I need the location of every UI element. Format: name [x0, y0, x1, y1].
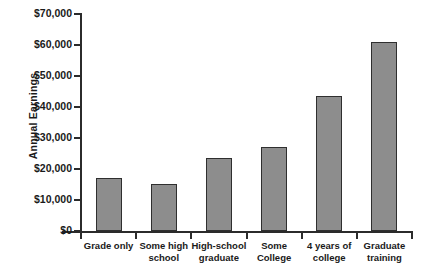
y-axis-tick-label-text: $50,000	[0, 69, 72, 81]
y-axis-tick-label-text: $10,000	[0, 193, 72, 205]
y-axis-tick	[74, 13, 81, 15]
x-axis-tick	[135, 231, 137, 239]
y-axis-tick-label-text: $20,000	[0, 162, 72, 174]
bar	[206, 158, 232, 231]
y-axis-tick-label: $0	[0, 224, 72, 236]
y-axis-tick-label: $60,000	[0, 38, 72, 50]
y-axis-tick-label-text: $0	[0, 224, 72, 236]
y-axis-tick	[74, 75, 81, 77]
bar	[371, 42, 397, 231]
y-axis-tick	[74, 199, 81, 201]
x-axis-tick	[301, 231, 303, 239]
x-axis-tick	[411, 231, 413, 239]
y-axis-tick	[74, 44, 81, 46]
y-axis-tick-label: $40,000	[0, 100, 72, 112]
y-axis-tick-label-text: $70,000	[0, 7, 72, 19]
x-axis-tick-label-line: Graduate	[351, 240, 418, 252]
y-axis-tick-label-text: $30,000	[0, 131, 72, 143]
y-axis-tick-label: $50,000	[0, 69, 72, 81]
x-axis-tick-label: Graduatetraining	[351, 240, 418, 263]
bar	[96, 178, 122, 231]
y-axis-tick-label-text: $60,000	[0, 38, 72, 50]
y-axis-tick	[74, 168, 81, 170]
x-axis-tick-label-line: training	[351, 252, 418, 264]
x-axis-tick	[190, 231, 192, 239]
bar	[261, 147, 287, 231]
y-axis-tick-label: $30,000	[0, 131, 72, 143]
x-axis-tick	[80, 231, 82, 239]
y-axis-tick-label-text: $40,000	[0, 100, 72, 112]
y-axis-tick-label: $20,000	[0, 162, 72, 174]
bar-chart: Annual Earnings $0$10,000$20,000$30,000$…	[0, 0, 427, 270]
y-axis-tick-label: $70,000	[0, 7, 72, 19]
bar	[151, 184, 177, 231]
x-axis-tick	[246, 231, 248, 239]
y-axis-tick-label: $10,000	[0, 193, 72, 205]
x-axis-tick	[356, 231, 358, 239]
y-axis-tick	[74, 106, 81, 108]
x-axis-line	[62, 231, 412, 233]
y-axis-tick	[74, 137, 81, 139]
bar	[316, 96, 342, 231]
